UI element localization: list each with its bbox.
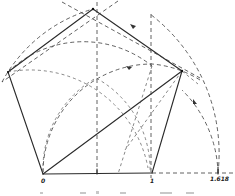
pentagon-edge-lower-left [8,72,43,174]
extension-top-right [62,2,200,78]
construction-slant-b [125,71,182,150]
pentagon-edge-upper-left [8,9,93,72]
label-origin: 0 [41,177,45,184]
label-unit: 1 [150,177,154,184]
pentagon-construction-diagram: 0 1 1.618 [0,0,235,196]
pentagon [8,9,182,174]
arc-origin-radius-phi [150,14,219,173]
pentagon-edge-lower-right [152,71,182,173]
pentagon-edge-upper-right [93,9,182,71]
arrow-right [193,99,197,104]
extension-right-vertex [182,71,198,84]
arc-golden-swing [182,90,218,173]
vertex-right [181,70,183,72]
extension-top-left [2,1,118,82]
caption-fragment [40,191,194,194]
arrow-upper [130,24,136,29]
diagonal-origin-to-right-vertex [43,71,182,174]
arc-inner-cross [8,70,148,168]
vertex-left [7,71,9,73]
arrow-middle [126,66,132,70]
vertex-top [92,8,94,10]
label-golden-ratio: 1.618 [210,175,229,182]
arc-inner-left [43,78,150,172]
arc-from-unit [43,64,200,172]
